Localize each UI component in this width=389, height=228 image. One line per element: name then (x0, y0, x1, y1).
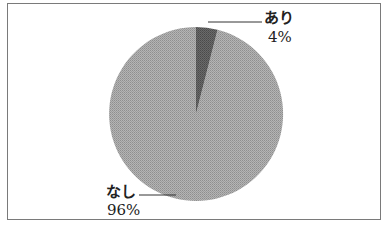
pie-chart (0, 0, 389, 228)
label-ari-name: あり (264, 11, 294, 26)
label-nashi-name: なし (106, 185, 136, 200)
label-ari-percent: 4% (268, 30, 292, 45)
label-nashi-percent: 96% (107, 203, 140, 218)
